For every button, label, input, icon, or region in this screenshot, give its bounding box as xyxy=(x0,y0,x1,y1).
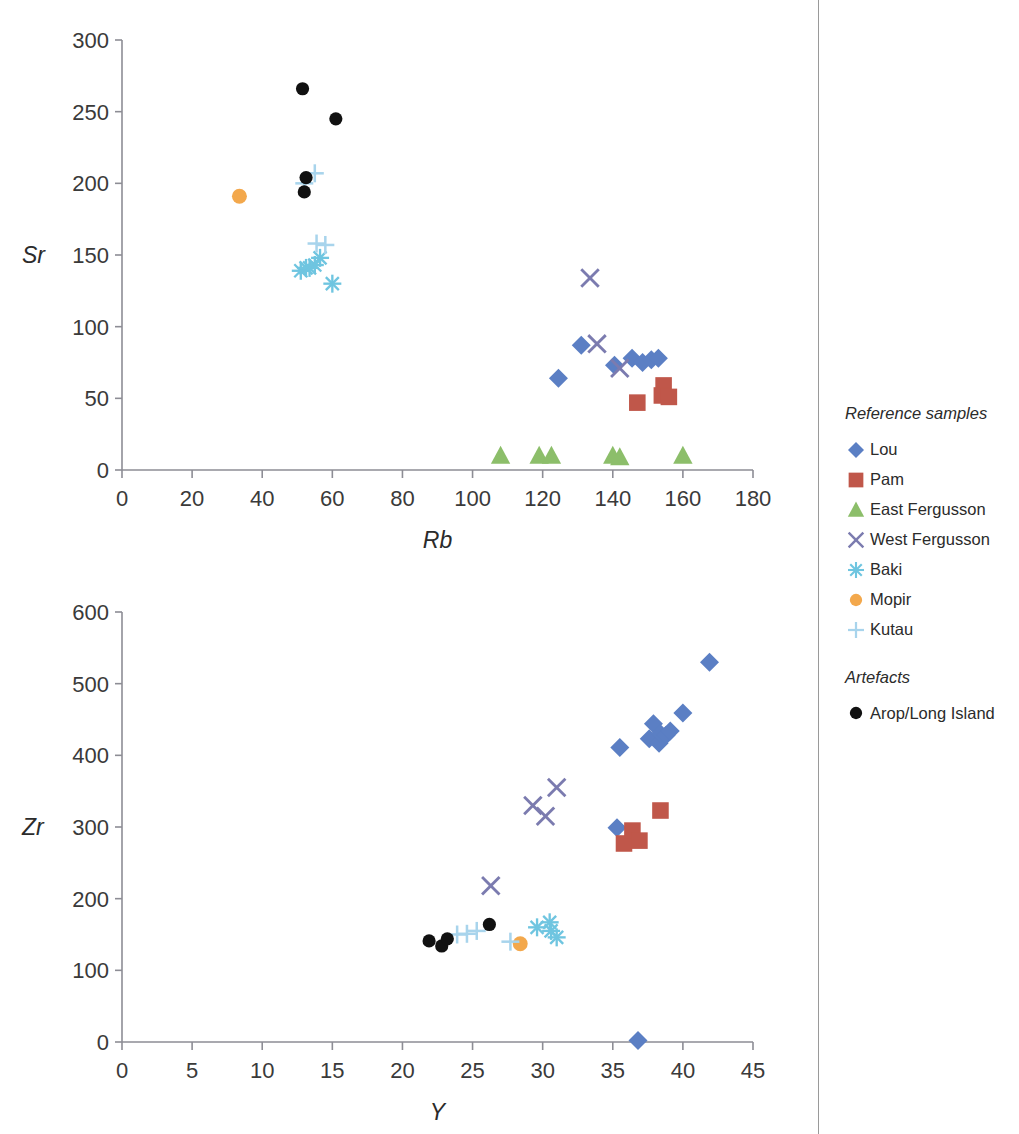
purple-x-icon xyxy=(845,529,867,551)
data-point xyxy=(673,704,692,723)
legend-item-label: Kutau xyxy=(870,621,913,638)
legend-item-label: West Fergusson xyxy=(870,531,990,548)
x-tick-label: 45 xyxy=(741,1058,765,1083)
data-point xyxy=(441,932,454,945)
legend-item-label: East Fergusson xyxy=(870,501,986,518)
data-point xyxy=(323,275,341,293)
data-point xyxy=(661,389,678,406)
data-point xyxy=(673,446,692,464)
orange-circle-icon-glyph xyxy=(850,593,862,605)
data-point xyxy=(329,112,342,125)
green-triangle-icon-glyph xyxy=(848,501,864,516)
legend-heading-reference: Reference samples xyxy=(845,405,1019,422)
red-square-icon xyxy=(845,469,867,491)
legend-divider xyxy=(818,0,819,1134)
data-point xyxy=(422,934,435,947)
x-tick-label: 30 xyxy=(530,1058,554,1083)
x-tick-label: 120 xyxy=(524,486,561,511)
data-point xyxy=(548,779,565,796)
cyan-asterisk-icon-glyph xyxy=(848,562,864,578)
x-tick-label: 0 xyxy=(116,1058,128,1083)
figure-legend: Reference samples LouPamEast FergussonWe… xyxy=(845,405,1019,728)
data-point xyxy=(652,802,669,819)
series-arop-long-island xyxy=(296,82,343,198)
data-point xyxy=(296,82,309,95)
x-tick-label: 5 xyxy=(186,1058,198,1083)
series-mopir xyxy=(232,189,247,204)
x-axis-title: Y xyxy=(430,1099,447,1125)
legend-item-label: Arop/Long Island xyxy=(870,705,995,722)
x-tick-label: 0 xyxy=(116,486,128,511)
y-tick-label: 300 xyxy=(72,28,109,53)
y-tick-label: 300 xyxy=(72,815,109,840)
data-point xyxy=(308,235,326,253)
scatter-chart-sr-vs-rb: 0501001502002503000204060801001201401601… xyxy=(0,0,818,580)
legend-item-label: Baki xyxy=(870,561,902,578)
data-point xyxy=(482,877,499,894)
legend-item-arop-long-island[interactable]: Arop/Long Island xyxy=(845,698,1019,728)
axes-sr-vs-rb xyxy=(115,40,753,478)
x-tick-label: 180 xyxy=(735,486,772,511)
x-tick-label: 35 xyxy=(601,1058,625,1083)
data-point xyxy=(232,189,247,204)
legend-item-east-fergusson[interactable]: East Fergusson xyxy=(845,495,1019,525)
series-west-fergusson xyxy=(482,779,565,895)
y-tick-label: 100 xyxy=(72,958,109,983)
data-point xyxy=(298,185,311,198)
black-circle-icon-glyph xyxy=(850,707,862,719)
series-lou xyxy=(549,336,668,388)
legend-item-lou[interactable]: Lou xyxy=(845,435,1019,465)
legend-item-mopir[interactable]: Mopir xyxy=(845,585,1019,615)
data-point xyxy=(483,918,496,931)
plot-svg-zr-vs-y: 0100200300400500600051015202530354045YZr xyxy=(0,580,818,1134)
y-tick-label: 50 xyxy=(85,386,109,411)
data-point xyxy=(491,446,510,464)
axes-zr-vs-y xyxy=(115,612,753,1050)
orange-circle-icon xyxy=(845,589,867,611)
data-point xyxy=(548,928,566,946)
y-tick-label: 400 xyxy=(72,743,109,768)
green-triangle-icon xyxy=(845,499,867,521)
data-point xyxy=(549,369,568,388)
legend-item-pam[interactable]: Pam xyxy=(845,465,1019,495)
series-west-fergusson xyxy=(581,269,628,377)
x-tick-label: 20 xyxy=(390,1058,414,1083)
y-tick-label: 500 xyxy=(72,672,109,697)
x-tick-label: 100 xyxy=(454,486,491,511)
data-point xyxy=(458,925,476,943)
y-tick-label: 200 xyxy=(72,171,109,196)
data-point xyxy=(610,738,629,757)
purple-x-icon-glyph xyxy=(849,532,864,547)
legend-item-label: Mopir xyxy=(870,591,911,608)
legend-artefact-list: Arop/Long Island xyxy=(845,698,1019,728)
blue-diamond-icon xyxy=(845,439,867,461)
data-point xyxy=(629,394,646,411)
data-points-zr-vs-y xyxy=(422,653,719,1050)
legend-item-label: Pam xyxy=(870,471,904,488)
x-tick-label: 10 xyxy=(250,1058,274,1083)
x-tick-label: 40 xyxy=(671,1058,695,1083)
axis-labels-sr-vs-rb: 0501001502002503000204060801001201401601… xyxy=(22,28,771,553)
legend-item-west-fergusson[interactable]: West Fergusson xyxy=(845,525,1019,555)
red-square-icon-glyph xyxy=(849,472,864,487)
x-tick-label: 80 xyxy=(390,486,414,511)
x-tick-label: 15 xyxy=(320,1058,344,1083)
y-tick-label: 100 xyxy=(72,315,109,340)
blue-diamond-icon-glyph xyxy=(848,442,864,458)
x-tick-label: 140 xyxy=(594,486,631,511)
legend-heading-artefacts: Artefacts xyxy=(845,669,1019,686)
series-east-fergusson xyxy=(491,446,693,465)
x-tick-label: 20 xyxy=(180,486,204,511)
legend-item-kutau[interactable]: Kutau xyxy=(845,615,1019,645)
axis-labels-zr-vs-y: 0100200300400500600051015202530354045YZr xyxy=(21,600,765,1125)
series-pam xyxy=(629,377,677,411)
data-point xyxy=(700,653,719,672)
y-tick-label: 600 xyxy=(72,600,109,625)
data-point xyxy=(629,1031,648,1050)
black-circle-icon xyxy=(845,702,867,724)
series-mopir xyxy=(513,936,528,951)
data-point xyxy=(631,832,648,849)
legend-item-baki[interactable]: Baki xyxy=(845,555,1019,585)
y-tick-label: 150 xyxy=(72,243,109,268)
y-tick-label: 0 xyxy=(97,458,109,483)
